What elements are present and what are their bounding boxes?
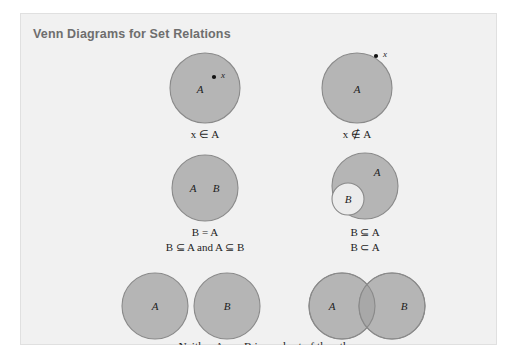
set-circle-a (170, 53, 240, 123)
diagram-x-not-in-a: A x x ∉ A (322, 49, 392, 140)
set-label-b: B (345, 193, 352, 205)
footer-caption: Neither A nor B is a subset of the other (178, 341, 357, 345)
diagram-b-equals-a: A B B = A B ⊆ A and A ⊆ B (166, 155, 245, 253)
set-label-b: B (224, 300, 231, 312)
point-dot-x (374, 54, 378, 58)
point-label-x: x (220, 70, 225, 80)
diagram-x-in-a: A x x ∈ A (170, 53, 240, 140)
figure-root: Venn Diagrams for Set Relations A x x ∈ … (0, 0, 531, 359)
set-label-a: A (196, 83, 204, 95)
point-label-x: x (382, 49, 387, 59)
set-label-b: B (401, 300, 408, 312)
caption-b-equals-a: B = A (192, 226, 218, 238)
set-label-a: A (151, 300, 159, 312)
diagram-overlapping-a-b: A B (309, 273, 425, 339)
caption-b-subseteq-a: B ⊆ A (350, 226, 379, 238)
caption-x-not-in-a: x ∉ A (343, 128, 371, 140)
point-dot-x (212, 75, 216, 79)
set-label-a: A (189, 182, 197, 194)
set-label-a: A (353, 83, 361, 95)
set-label-b: B (213, 182, 220, 194)
diagram-b-subset-a: A B B ⊆ A B ⊂ A (332, 153, 398, 253)
diagram-disjoint-a-b: A B (122, 273, 260, 339)
caption-b-subset-a: B ⊂ A (350, 241, 379, 253)
set-circle-ab (172, 155, 238, 221)
caption-mutual-subset: B ⊆ A and A ⊆ B (166, 241, 245, 253)
caption-x-in-a: x ∈ A (191, 128, 219, 140)
venn-diagram-canvas: A x x ∈ A A x x ∉ A A B B = A B ⊆ A and … (20, 13, 497, 345)
set-label-a: A (328, 300, 336, 312)
set-label-a: A (373, 166, 381, 178)
